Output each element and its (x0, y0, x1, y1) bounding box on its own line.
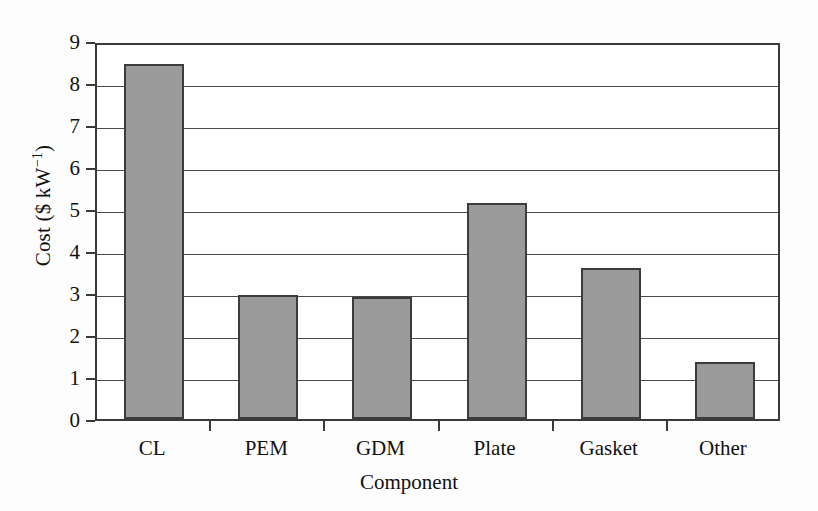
y-axis-tick (86, 420, 95, 422)
y-axis-tick (86, 84, 95, 86)
y-axis-tick-label: 9 (46, 32, 80, 53)
gridline (97, 380, 778, 381)
bar (695, 362, 755, 419)
y-axis-tick-label: 4 (46, 242, 80, 263)
x-axis-tick (552, 421, 554, 431)
bar-chart-figure: Cost ($ kW−1) 9876543210 Component CLPEM… (0, 0, 818, 511)
gridline (97, 296, 778, 297)
gridline (97, 170, 778, 171)
y-axis-tick (86, 252, 95, 254)
bar (467, 203, 527, 419)
gridline (97, 86, 778, 87)
bar (124, 64, 184, 419)
x-axis-tick-label-plate: Plate (430, 436, 560, 461)
y-axis-tick (86, 126, 95, 128)
y-axis-tick (86, 294, 95, 296)
bar (238, 295, 298, 419)
bar (352, 297, 412, 419)
plot-area (95, 43, 780, 421)
x-axis-tick-label-other: Other (658, 436, 788, 461)
y-axis-tick (86, 336, 95, 338)
y-axis-tick-label: 0 (46, 410, 80, 431)
y-axis-tick (86, 42, 95, 44)
x-axis-tick (209, 421, 211, 431)
x-axis-tick (438, 421, 440, 431)
gridline (97, 254, 778, 255)
x-axis-tick-label-gasket: Gasket (544, 436, 674, 461)
y-axis-tick (86, 168, 95, 170)
y-axis-tick (86, 378, 95, 380)
y-axis-tick-label: 3 (46, 284, 80, 305)
y-axis-tick-label: 7 (46, 116, 80, 137)
y-axis-tick-label: 5 (46, 200, 80, 221)
y-axis-tick (86, 210, 95, 212)
x-axis-tick-label-cl: CL (87, 436, 217, 461)
y-axis-tick-labels: 9876543210 (12, 0, 80, 511)
bar (581, 268, 641, 419)
y-axis-tick-label: 1 (46, 368, 80, 389)
x-axis-tick (323, 421, 325, 431)
gridline (97, 128, 778, 129)
x-axis-title: Component (0, 470, 818, 495)
y-axis-tick-label: 6 (46, 158, 80, 179)
x-axis-tick-label-gdm: GDM (315, 436, 445, 461)
y-axis-tick-label: 2 (46, 326, 80, 347)
x-axis-tick-label-pem: PEM (201, 436, 331, 461)
y-axis-tick-label: 8 (46, 74, 80, 95)
gridline (97, 212, 778, 213)
x-axis-tick (666, 421, 668, 431)
gridline (97, 338, 778, 339)
